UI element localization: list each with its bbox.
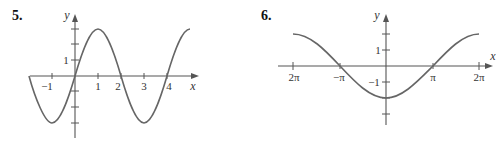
x-axis-label: x xyxy=(189,79,196,93)
y-axis-arrow-icon xyxy=(72,14,78,22)
y-axis-arrow-icon xyxy=(383,14,389,22)
x-axis-arrow-icon xyxy=(485,63,493,69)
y-axis-label: y xyxy=(63,8,70,22)
graph-6: 6. 2π −π π 2π 1 −1 x y xyxy=(261,8,496,125)
x-tick-label: −π xyxy=(333,71,345,83)
y-tick-label: 1 xyxy=(63,54,69,66)
y-tick-label: 1 xyxy=(375,44,381,56)
y-tick-label: −1 xyxy=(368,76,380,88)
x-tick-label: 2π xyxy=(473,71,485,83)
x-axis-label: x xyxy=(489,49,496,63)
x-tick-label: 1 xyxy=(95,80,101,92)
problem-number-6: 6. xyxy=(261,8,272,23)
x-tick-label: 2 xyxy=(115,80,121,92)
x-tick-label: 4 xyxy=(166,80,172,92)
graph-5: 5. −1 1 2 3 4 1 x y xyxy=(12,8,199,138)
figure: 5. −1 1 2 3 4 1 x y xyxy=(0,0,501,146)
x-tick-label: 3 xyxy=(141,80,147,92)
y-axis-label: y xyxy=(373,8,380,22)
x-tick-label: 2π xyxy=(288,71,300,83)
x-tick-label: −1 xyxy=(41,80,53,92)
x-tick-label: π xyxy=(430,71,436,83)
problem-number-5: 5. xyxy=(12,8,23,23)
